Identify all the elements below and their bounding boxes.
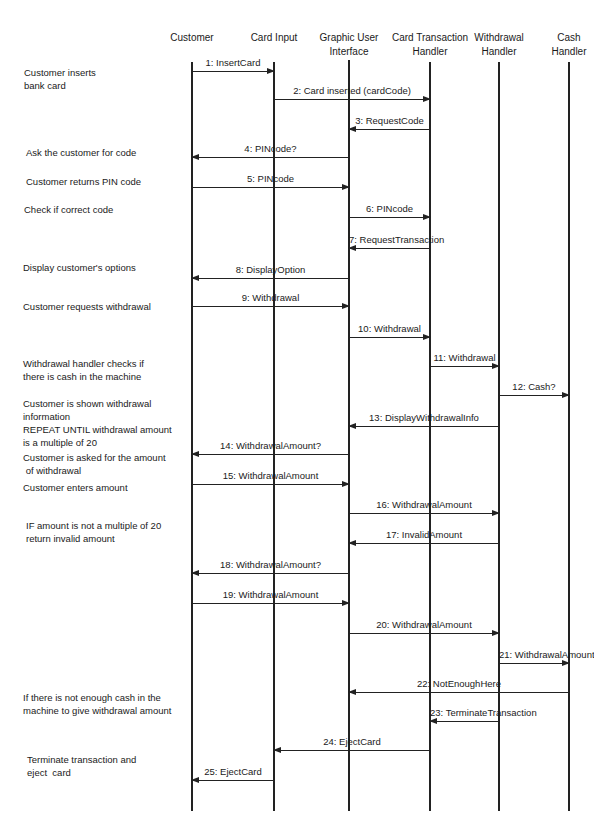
lifeline-cash-handler [568, 62, 569, 811]
message-arrow-12: 12: Cash? [499, 395, 569, 396]
message-arrow-5: 5: PINcode [192, 187, 349, 188]
annotation-line: Check if correct code [24, 203, 113, 216]
annotation-line: there is cash in the machine [23, 370, 144, 383]
participant-label-line: Customer [170, 32, 213, 44]
annotation-line: REPEAT UNTIL withdrawal amount [23, 423, 172, 436]
annotation-note: Customer is asked for the amount of with… [23, 451, 166, 477]
participant-label-line: Interface [320, 46, 379, 58]
message-label: 4: PINcode? [192, 143, 349, 154]
message-label: 11: Withdrawal [430, 352, 499, 363]
annotation-line: Display customer's options [23, 261, 136, 274]
message-label: 8: DisplayOption [192, 264, 349, 275]
message-arrow-19: 19: WithdrawalAmount [192, 603, 349, 604]
annotation-note: Customer insertsbank card [24, 66, 96, 92]
annotation-line: machine to give withdrawal amount [23, 704, 171, 717]
message-arrow-24: 24: EjectCard [274, 750, 430, 751]
annotation-line: Customer is asked for the amount [23, 451, 166, 464]
annotation-line: Customer is shown withdrawal [23, 397, 172, 410]
lifeline-withdrawal-handler [498, 62, 499, 811]
participant-header-gui: Graphic UserInterface [320, 32, 379, 58]
message-label: 7: RequestTransaction [349, 234, 430, 245]
annotation-line: Customer requests withdrawal [23, 300, 151, 313]
message-label: 5: PINcode [192, 173, 349, 184]
annotation-line: Customer inserts [24, 66, 96, 79]
message-label: 1: InsertCard [192, 57, 274, 68]
annotation-note: Check if correct code [24, 203, 113, 216]
participant-header-cash-handler: CashHandler [551, 32, 586, 58]
annotation-note: Ask the customer for code [26, 146, 136, 159]
message-label: 22: NotEnoughHere [349, 678, 569, 689]
participant-header-card-input: Card Input [251, 32, 298, 44]
participant-label-line: Cash [551, 32, 586, 44]
message-label: 6: PINcode [349, 203, 430, 214]
message-label: 3: RequestCode [349, 115, 430, 126]
message-label: 25: EjectCard [192, 766, 274, 777]
message-label: 12: Cash? [499, 381, 569, 392]
participant-header-withdrawal-handler: WithdrawalHandler [474, 32, 523, 58]
annotation-line: If there is not enough cash in the [23, 691, 171, 704]
participant-header-card-transaction-handler: Card TransactionHandler [392, 32, 468, 58]
message-label: 20: WithdrawalAmount [349, 619, 499, 630]
message-arrow-10: 10: Withdrawal [349, 337, 430, 338]
annotation-line: information [23, 410, 172, 423]
message-label: 13: DisplayWithdrawalInfo [349, 412, 499, 423]
annotation-line: Customer returns PIN code [26, 175, 141, 188]
sequence-diagram: CustomerCard InputGraphic UserInterfaceC… [0, 0, 594, 829]
message-arrow-11: 11: Withdrawal [430, 366, 499, 367]
message-label: 17: InvalidAmount [349, 529, 499, 540]
lifeline-card-transaction-handler [429, 62, 430, 811]
message-arrow-3: 3: RequestCode [349, 129, 430, 130]
message-label: 21: WithdrawalAmount [499, 649, 569, 660]
participant-header-customer: Customer [170, 32, 213, 44]
message-label: 9: Withdrawal [192, 292, 349, 303]
message-label: 10: Withdrawal [349, 323, 430, 334]
message-arrow-4: 4: PINcode? [192, 157, 349, 158]
annotation-note: Withdrawal handler checks ifthere is cas… [23, 357, 144, 383]
annotation-line: IF amount is not a multiple of 20 [26, 519, 161, 532]
annotation-line: Withdrawal handler checks if [23, 357, 144, 370]
annotation-note: Terminate transaction andeject card [27, 753, 136, 779]
annotation-line: eject card [27, 766, 136, 779]
annotation-note: Customer requests withdrawal [23, 300, 151, 313]
message-label: 19: WithdrawalAmount [192, 589, 349, 600]
message-arrow-9: 9: Withdrawal [192, 306, 349, 307]
annotation-note: IF amount is not a multiple of 20return … [26, 519, 161, 545]
annotation-line: bank card [24, 79, 96, 92]
annotation-line: return invalid amount [26, 532, 161, 545]
participant-label-line: Card Transaction [392, 32, 468, 44]
message-arrow-1: 1: InsertCard [192, 71, 274, 72]
annotation-note: Customer returns PIN code [26, 175, 141, 188]
message-arrow-6: 6: PINcode [349, 217, 430, 218]
annotation-line: Terminate transaction and [27, 753, 136, 766]
annotation-note: Display customer's options [23, 261, 136, 274]
annotation-note: If there is not enough cash in themachin… [23, 691, 171, 717]
annotation-line: is a multiple of 20 [23, 436, 172, 449]
annotation-line: of withdrawal [23, 464, 166, 477]
message-label: 15: WithdrawalAmount [192, 470, 349, 481]
message-label: 23: TerminateTransaction [430, 707, 499, 718]
participant-label-line: Card Input [251, 32, 298, 44]
message-label: 14: WithdrawalAmount? [192, 440, 349, 451]
participant-label-line: Graphic User [320, 32, 379, 44]
message-arrow-21: 21: WithdrawalAmount [499, 663, 569, 664]
participant-label-line: Withdrawal [474, 32, 523, 44]
participant-label-line: Handler [392, 46, 468, 58]
message-label: 18: WithdrawalAmount? [192, 559, 349, 570]
message-arrow-23: 23: TerminateTransaction [430, 721, 499, 722]
message-arrow-14: 14: WithdrawalAmount? [192, 454, 349, 455]
participant-label-line: Handler [551, 46, 586, 58]
message-arrow-8: 8: DisplayOption [192, 278, 349, 279]
annotation-line: Customer enters amount [23, 481, 128, 494]
message-arrow-22: 22: NotEnoughHere [349, 692, 569, 693]
participant-label-line: Handler [474, 46, 523, 58]
message-label: 16: WithdrawalAmount [349, 499, 499, 510]
annotation-note: Customer enters amount [23, 481, 128, 494]
message-arrow-25: 25: EjectCard [192, 780, 274, 781]
message-label: 24: EjectCard [274, 736, 430, 747]
message-arrow-2: 2: Card inserted (cardCode) [274, 99, 430, 100]
message-arrow-17: 17: InvalidAmount [349, 543, 499, 544]
message-arrow-16: 16: WithdrawalAmount [349, 513, 499, 514]
message-label: 2: Card inserted (cardCode) [274, 85, 430, 96]
message-arrow-7: 7: RequestTransaction [349, 248, 430, 249]
message-arrow-15: 15: WithdrawalAmount [192, 484, 349, 485]
